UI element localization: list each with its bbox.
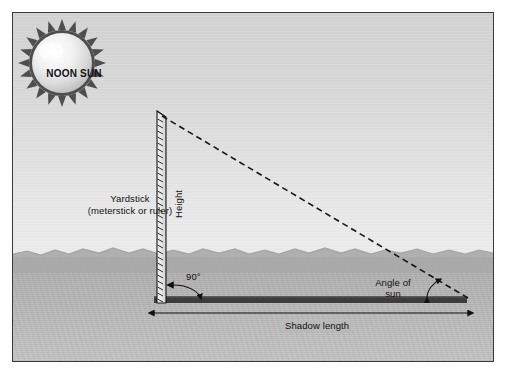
illustration-stage: NOON SUN [0,0,506,372]
sun-ray-dashed-line [162,116,468,298]
yardstick-label-line2: (meterstick or ruler) [88,205,172,216]
yardstick-label: Yardstick (meterstick or ruler) [75,193,185,217]
sun-angle-label: Angle of sun [365,277,421,299]
right-angle-label: 90° [186,271,201,283]
diagram-geometry [13,13,493,361]
sun-angle-arc [427,279,441,298]
height-label: Height [173,190,185,218]
shadow-length-label: Shadow length [281,320,353,332]
yardstick-label-line1: Yardstick [110,193,149,204]
illustration-frame: NOON SUN [12,12,494,362]
sun-angle-label-line2: sun [385,288,401,299]
sun-angle-label-line1: Angle of [375,277,411,288]
